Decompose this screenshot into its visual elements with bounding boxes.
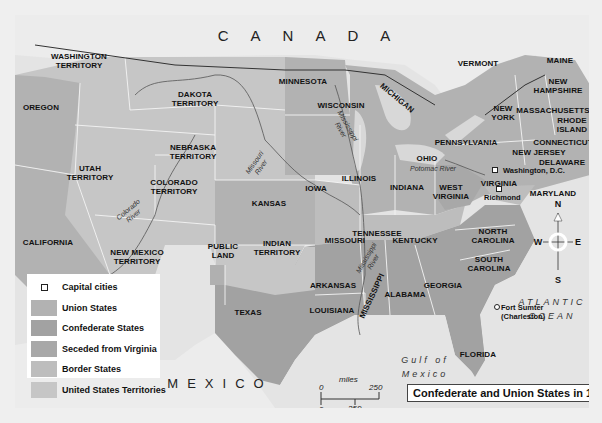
legend-item-capital: Capital cities <box>31 277 156 298</box>
region-indiana: INDIANA <box>390 183 424 192</box>
compass-north: N <box>555 200 562 209</box>
legend-label: Border States <box>62 364 121 374</box>
region-south-carolina: SOUTH CAROLINA <box>467 255 510 273</box>
region-illinois: ILLINOIS <box>342 174 377 183</box>
seceded-virginia-swatch <box>31 341 57 357</box>
region-indian-territory: INDIAN TERRITORY <box>254 239 301 257</box>
region-new-hampshire: NEW HAMPSHIRE <box>534 77 583 95</box>
scale-bar: miles 0 250 0 250 km <box>319 375 389 408</box>
region-oregon: OREGON <box>23 103 59 112</box>
region-kansas: KANSAS <box>252 199 286 208</box>
region-maine: MAINE <box>547 56 573 65</box>
map-legend: Capital cities Union States Confederate … <box>27 274 160 378</box>
region-new-jersey: NEW JERSEY <box>512 148 565 157</box>
region-texas: TEXAS <box>234 308 261 317</box>
fort-sumter-line2: (Charleston) <box>501 312 545 321</box>
region-utah-territory: UTAH TERRITORY <box>67 164 114 182</box>
legend-item-union: Union States <box>31 298 156 319</box>
region-georgia: GEORGIA <box>424 281 462 290</box>
region-north-carolina: NORTH CAROLINA <box>471 227 514 245</box>
region-ohio: OHIO <box>417 154 438 163</box>
union-swatch <box>31 300 57 316</box>
legend-item-territories: United States Territories <box>31 380 156 401</box>
region-new-mexico-territory: NEW MEXICO TERRITORY <box>110 248 163 266</box>
scale-miles-label: miles <box>339 375 358 384</box>
legend-item-seceded-virginia: Seceded from Virginia <box>31 339 156 360</box>
region-massachusetts: MASSACHUSETTS <box>516 106 589 115</box>
region-florida: FLORIDA <box>460 350 496 359</box>
region-louisiana: LOUISIANA <box>310 306 355 315</box>
legend-label: Union States <box>62 303 117 313</box>
region-california: CALIFORNIA <box>23 238 73 247</box>
scale-km-max: 250 <box>348 404 361 408</box>
scale-km-zero: 0 <box>319 405 323 408</box>
region-dakota-territory: DAKOTA TERRITORY <box>172 90 219 108</box>
compass-west: W <box>534 238 543 247</box>
legend-item-border: Border States <box>31 359 156 380</box>
capital-marker-washington <box>492 167 498 173</box>
region-west-virginia: WEST VIRGINIA <box>433 183 469 201</box>
region-new-york: NEW YORK <box>491 104 515 122</box>
confederate-swatch <box>31 320 57 336</box>
map-title: Confederate and Union States in 1861 <box>407 384 589 402</box>
legend-label: Confederate States <box>62 323 144 333</box>
water-label-gulf-of-mexico: Gulf of Mexico <box>401 353 449 381</box>
region-connecticut: CONNECTICUT <box>533 138 589 147</box>
capital-marker-richmond <box>496 186 502 192</box>
scale-miles-max: 250 <box>369 383 382 392</box>
compass-south: S <box>555 276 561 285</box>
region-wisconsin: WISCONSIN <box>317 101 364 110</box>
city-label-richmond: Richmond <box>484 193 521 202</box>
country-label-mexico: MEXICO <box>167 376 272 391</box>
legend-label: United States Territories <box>62 385 166 395</box>
region-alabama: ALABAMA <box>384 290 425 299</box>
fort-sumter-line1: Fort Sumter <box>501 303 545 312</box>
capital-square-icon <box>31 284 57 291</box>
region-arkansas: ARKANSAS <box>310 281 356 290</box>
legend-label: Capital cities <box>62 282 118 292</box>
compass-east: E <box>575 238 581 247</box>
scale-miles-zero: 0 <box>319 383 323 392</box>
city-label-washington-dc: Washington, D.C. <box>503 166 565 175</box>
region-nebraska-territory: NEBRASKA TERRITORY <box>170 143 217 161</box>
region-tennessee: TENNESSEE <box>352 229 401 238</box>
region-public-land: PUBLIC LAND <box>208 242 238 260</box>
region-pennsylvania: PENNSYLVANIA <box>435 138 498 147</box>
region-washington-territory: WASHINGTON TERRITORY <box>51 52 107 70</box>
border-swatch <box>31 361 57 377</box>
gulf-line2: Mexico <box>401 367 449 381</box>
region-vermont: VERMONT <box>458 59 499 68</box>
fort-sumter-marker <box>494 304 500 310</box>
city-label-fort-sumter: Fort Sumter (Charleston) <box>501 303 545 321</box>
legend-item-confederate: Confederate States <box>31 318 156 339</box>
region-rhode-island: RHODE ISLAND <box>557 116 587 134</box>
region-iowa: IOWA <box>305 184 327 193</box>
country-label-canada: CANADA <box>218 27 413 44</box>
territories-swatch <box>31 382 57 398</box>
river-label-potomac: Potomac River <box>410 165 456 173</box>
legend-label: Seceded from Virginia <box>62 344 157 354</box>
gulf-line1: Gulf of <box>401 353 449 367</box>
region-colorado-territory: COLORADO TERRITORY <box>150 178 197 196</box>
region-maryland: MARYLAND <box>530 189 576 198</box>
region-minnesota: MINNESOTA <box>279 77 327 86</box>
